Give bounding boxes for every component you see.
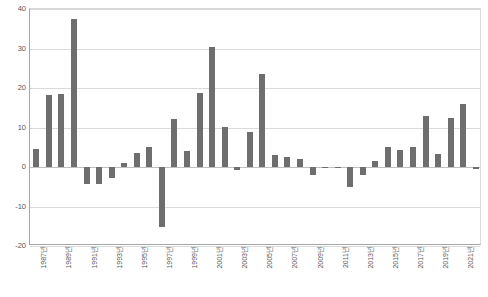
x-tick-label: 2019년 [440, 247, 450, 269]
x-tick-label: 1999년 [189, 247, 199, 269]
bar [310, 167, 316, 175]
bar [297, 159, 303, 167]
bar [473, 167, 479, 169]
bar-chart: 403020100-10-20 1987년1989년1991년1993년1995… [0, 0, 488, 297]
x-tick-label: 1987년 [38, 247, 48, 269]
bar [360, 167, 366, 175]
bar [234, 167, 240, 170]
bar [284, 157, 290, 167]
y-tick-label: 30 [18, 43, 26, 52]
x-tick-label: 1991년 [89, 247, 99, 269]
bar [460, 104, 466, 167]
y-tick-label: 10 [18, 122, 26, 131]
plot-area [29, 8, 481, 245]
bar-series [30, 9, 480, 244]
y-tick-label: 40 [18, 4, 26, 13]
y-tick-label: 0 [22, 162, 26, 171]
bar [272, 155, 278, 167]
x-tick-label: 1995년 [139, 247, 149, 269]
bar [410, 147, 416, 167]
x-tick-label: 2017년 [415, 247, 425, 269]
bar [96, 167, 102, 184]
bar [347, 167, 353, 187]
bar [84, 167, 90, 184]
bar [159, 167, 165, 227]
y-tick-label: 20 [18, 83, 26, 92]
bar [58, 94, 64, 167]
x-tick-label: 2015년 [390, 247, 400, 269]
x-tick-label: 2005년 [264, 247, 274, 269]
bar [448, 118, 454, 167]
y-axis-labels: 403020100-10-20 [0, 0, 29, 253]
bar [134, 153, 140, 167]
bar [71, 19, 77, 167]
x-tick-label: 1993년 [114, 247, 124, 269]
x-tick-label: 2013년 [365, 247, 375, 269]
bar [209, 47, 215, 167]
x-tick-label: 2009년 [315, 247, 325, 269]
bar [247, 132, 253, 167]
y-tick-label: -20 [15, 241, 26, 250]
bar [197, 93, 203, 167]
bar [322, 167, 328, 168]
bar [171, 119, 177, 167]
x-tick-label: 2021년 [465, 247, 475, 269]
bar [121, 163, 127, 167]
bar [146, 147, 152, 167]
bar [385, 147, 391, 167]
bar [184, 151, 190, 167]
bar [33, 149, 39, 167]
bar [109, 167, 115, 178]
bar [372, 161, 378, 167]
x-tick-label: 2001년 [214, 247, 224, 269]
bar [335, 167, 341, 168]
y-tick-label: -10 [15, 201, 26, 210]
x-tick-label: 1989년 [63, 247, 73, 269]
x-tick-label: 1997년 [164, 247, 174, 269]
x-tick-label: 2007년 [289, 247, 299, 269]
x-tick-label: 2011년 [340, 247, 350, 268]
bar [222, 127, 228, 167]
x-axis-labels: 1987년1989년1991년1993년1995년1997년1999년2001년… [29, 247, 481, 297]
bar [435, 154, 441, 167]
bar [46, 95, 52, 167]
bar [259, 74, 265, 167]
bar [423, 116, 429, 167]
bar [397, 150, 403, 167]
x-tick-label: 2003년 [239, 247, 249, 269]
